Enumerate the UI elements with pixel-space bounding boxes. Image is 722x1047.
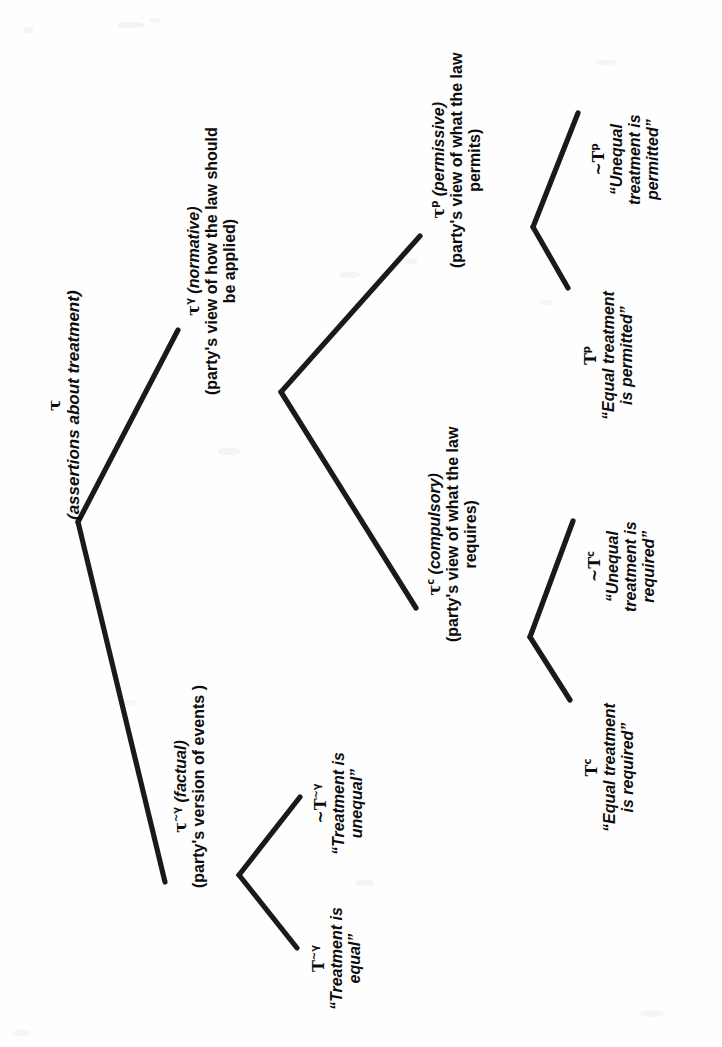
leaf-compulsory-negative-quote-line3: required” (640, 521, 658, 612)
leaf-factual-negative-symbol: ~T~γ (312, 752, 330, 855)
node-permissive-gloss-line1: (party's view of what the law (448, 53, 466, 268)
node-root-gloss: (assertions about treatment) (64, 290, 83, 520)
node-permissive-gloss-line2: permits) (466, 53, 484, 268)
edge-compulsory-to-tpos (530, 637, 570, 700)
edge-normative-to-compulsory (281, 392, 416, 608)
node-permissive-symbol: τp (permissive) (430, 53, 448, 268)
leaf-permissive-negative-quote-line1: “Unequal (608, 114, 626, 205)
leaf-compulsory-positive-symbol: Tc (583, 703, 601, 832)
node-factual: τ~γ (factual) (party's version of events… (172, 685, 208, 888)
leaf-compulsory-negative-quote-line1: “Unequal (604, 521, 622, 612)
node-normative-gloss-line2: be applied) (221, 127, 239, 395)
leaf-permissive-negative: ~Tp “Unequal treatment is permitted” (590, 114, 662, 205)
node-normative-gloss-line1: (party's view of how the law should (203, 127, 221, 395)
node-root-symbol: τ (45, 290, 64, 520)
leaf-factual-negative-quote-line1: “Treatment is (330, 752, 348, 855)
node-normative-symbol: τγ (normative) (185, 127, 203, 395)
leaf-factual-negative: ~T~γ “Treatment is unequal” (312, 752, 366, 855)
edge-normative-to-permissive (281, 236, 420, 392)
node-normative: τγ (normative) (party's view of how the … (185, 127, 239, 395)
leaf-factual-positive-symbol: T~γ (310, 907, 328, 1010)
leaf-permissive-negative-symbol: ~Tp (590, 114, 608, 205)
leaf-factual-positive: T~γ “Treatment is equal” (310, 907, 364, 1010)
leaf-permissive-negative-quote-line2: treatment is (626, 114, 644, 205)
node-compulsory: τc (compulsory) (party's view of what th… (426, 427, 480, 642)
node-compulsory-symbol: τc (compulsory) (426, 427, 444, 642)
node-factual-gloss-line1: (party's version of events ) (190, 685, 208, 888)
node-factual-symbol: τ~γ (factual) (172, 685, 190, 888)
edge-root-to-factual (78, 522, 165, 882)
leaf-factual-positive-quote-line1: “Treatment is (328, 907, 346, 1010)
leaf-factual-positive-quote-line2: equal” (346, 907, 364, 1010)
leaf-compulsory-negative-quote-line2: treatment is (622, 521, 640, 612)
leaf-compulsory-positive: Tc “Equal treatment is required” (583, 703, 637, 832)
node-permissive: τp (permissive) (party's view of what th… (430, 53, 484, 268)
edge-permissive-to-tneg (533, 113, 578, 227)
node-compulsory-gloss-line1: (party's view of what the law (444, 427, 462, 642)
edge-root-to-normative (78, 330, 178, 522)
edge-factual-to-tpos (239, 875, 297, 948)
edge-compulsory-to-tneg (530, 521, 573, 637)
edge-factual-to-tneg (239, 797, 300, 875)
leaf-permissive-positive-quote-line2: is permitted” (618, 291, 636, 420)
leaf-compulsory-negative: ~Tc “Unequal treatment is required” (586, 521, 658, 612)
leaf-compulsory-positive-quote-line1: “Equal treatment (601, 703, 619, 832)
figure-canvas: τ (assertions about treatment) τγ (norma… (0, 0, 722, 1047)
leaf-permissive-positive-symbol: Tp (582, 291, 600, 420)
leaf-factual-negative-quote-line2: unequal” (348, 752, 366, 855)
leaf-permissive-negative-quote-line3: permitted” (644, 114, 662, 205)
edge-permissive-to-tpos (533, 227, 568, 288)
leaf-compulsory-negative-symbol: ~Tc (586, 521, 604, 612)
leaf-compulsory-positive-quote-line2: is required” (619, 703, 637, 832)
node-root: τ (assertions about treatment) (45, 290, 83, 520)
leaf-permissive-positive-quote-line1: “Equal treatment (600, 291, 618, 420)
leaf-permissive-positive: Tp “Equal treatment is permitted” (582, 291, 636, 420)
node-compulsory-gloss-line2: requires) (462, 427, 480, 642)
